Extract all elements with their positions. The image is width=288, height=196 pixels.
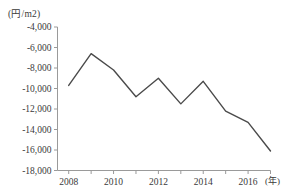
x-axis-ticks — [69, 171, 271, 175]
y-axis-tick-label: -10,000 — [22, 84, 51, 94]
x-axis-tick-label: 2014 — [183, 177, 223, 187]
y-axis-ticks — [54, 27, 58, 171]
y-axis-tick-label: -8,000 — [27, 63, 52, 73]
y-axis-tick-label: -18,000 — [22, 166, 51, 176]
y-axis-tick-label: -4,000 — [27, 22, 52, 32]
x-axis-unit-label: (年) — [265, 176, 280, 186]
x-axis-tick-label: 2012 — [138, 177, 178, 187]
x-axis — [58, 171, 271, 175]
x-axis-tick-label: 2008 — [49, 177, 89, 187]
x-axis-tick-label: 2016 — [228, 177, 268, 187]
x-axis-tick-label: 2010 — [94, 177, 134, 187]
y-axis-tick-label: -6,000 — [27, 43, 52, 53]
chart-container: (円/m2) -4,000-6,000-8,000-10,000-12,000-… — [0, 0, 288, 196]
y-axis-tick-label: -14,000 — [22, 125, 51, 135]
y-axis — [54, 27, 58, 171]
y-axis-tick-label: -12,000 — [22, 104, 51, 114]
data-series-line — [69, 54, 271, 151]
y-axis-tick-label: -16,000 — [22, 145, 51, 155]
